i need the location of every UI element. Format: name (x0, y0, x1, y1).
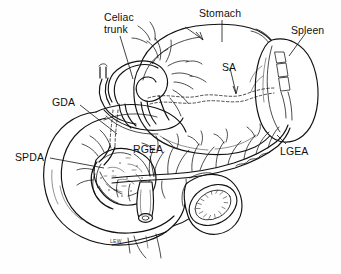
label-celiac-trunk: Celiactrunk (104, 12, 134, 35)
label-rgea: RGEA (133, 144, 163, 156)
bowel-cut-end (182, 173, 244, 235)
anatomy-line-drawing: .o{fill:none;stroke:#111;stroke-width:1.… (0, 0, 341, 274)
label-lgea: LGEA (280, 146, 308, 158)
label-spda: SPDA (15, 152, 44, 164)
label-spleen: Spleen (291, 25, 324, 37)
vessel-stump (137, 182, 154, 222)
label-stomach: Stomach (199, 8, 241, 20)
label-celiac-trunk-line2: trunk (104, 23, 128, 35)
artist-signature: LEW (110, 238, 122, 243)
label-sa: SA (222, 62, 236, 74)
anatomy-figure: .o{fill:none;stroke:#111;stroke-width:1.… (0, 0, 341, 274)
label-celiac-trunk-line1: Celiac (104, 11, 134, 23)
label-gda: GDA (52, 97, 75, 109)
